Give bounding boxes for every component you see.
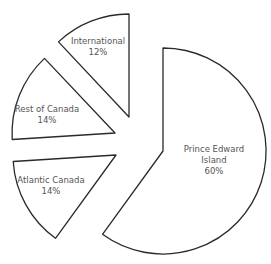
label-percent: 14% xyxy=(15,115,79,126)
label-name: Atlantic Canada xyxy=(17,175,84,186)
label-percent: 14% xyxy=(17,186,84,197)
pie-chart xyxy=(0,0,271,264)
label-percent: 12% xyxy=(71,47,125,58)
label-name: Rest of Canada xyxy=(15,104,79,115)
label-prince-edward-island: Prince Edward Island 60% xyxy=(184,144,245,177)
label-name: Prince Edward xyxy=(184,144,245,155)
label-name: International xyxy=(71,36,125,47)
label-percent: 60% xyxy=(184,166,245,177)
label-name-cont: Island xyxy=(184,155,245,166)
label-international: International 12% xyxy=(71,36,125,58)
label-rest-of-canada: Rest of Canada 14% xyxy=(15,104,79,126)
label-atlantic-canada: Atlantic Canada 14% xyxy=(17,175,84,197)
